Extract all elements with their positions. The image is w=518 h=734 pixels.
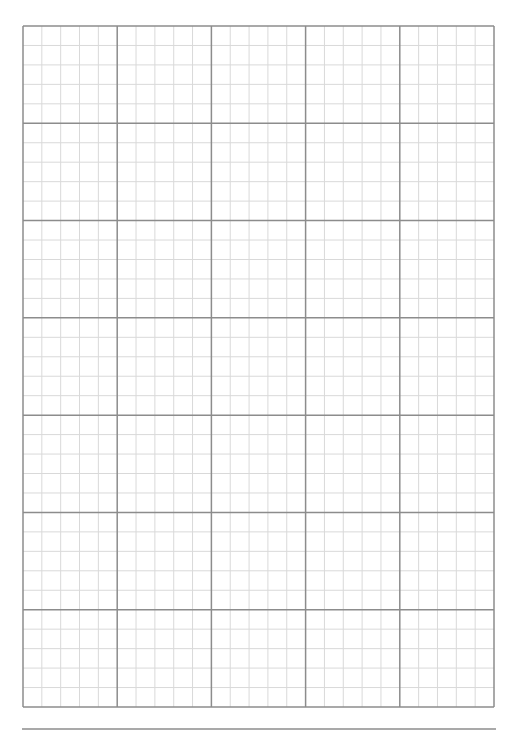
major-grid-lines (23, 26, 494, 707)
graph-paper-grid (0, 0, 518, 734)
minor-grid-lines (23, 26, 494, 707)
